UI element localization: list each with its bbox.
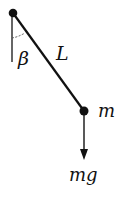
angle-label: β	[18, 49, 29, 68]
arrowhead-icon	[80, 149, 88, 160]
weight-label: mg	[69, 166, 98, 184]
length-label: L	[56, 44, 69, 63]
pendulum-bob	[80, 107, 89, 116]
mass-label: m	[98, 102, 115, 120]
angle-arc	[12, 33, 25, 38]
pivot-point	[9, 9, 18, 18]
